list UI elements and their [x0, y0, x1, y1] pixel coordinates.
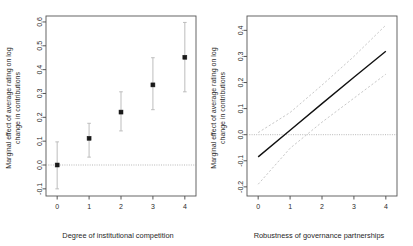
- right-y-tick-labels: -0.2-0.10.00.10.20.30.4: [237, 25, 244, 193]
- right-plot-frame: [247, 16, 397, 196]
- data-point: [151, 83, 155, 87]
- r-y-tick-label: 0.0: [237, 130, 244, 140]
- panel-left-svg: Marginal effect of average rating on log…: [0, 0, 206, 246]
- l-y-tick-label: 0.4: [36, 65, 43, 75]
- left-x-axis-label: Degree of institutional competition: [62, 231, 173, 240]
- l-x-tick-label: 4: [183, 203, 187, 210]
- r-x-tick-label: 4: [384, 203, 388, 210]
- l-x-tick-label: 3: [151, 203, 155, 210]
- left-x-ticks: [57, 196, 185, 200]
- left-y-axis-label-line2: change in contributions: [14, 72, 22, 144]
- l-y-tick-label: 0.0: [36, 160, 43, 170]
- right-confidence-bands: [258, 25, 386, 184]
- r-x-tick-label: 0: [256, 203, 260, 210]
- right-marginal-effect-line: [258, 51, 386, 157]
- l-y-tick-label: 0.5: [36, 41, 43, 51]
- l-x-tick-label: 2: [119, 203, 123, 210]
- l-y-tick-label: 0.1: [36, 136, 43, 146]
- series-upper-95-ci: [258, 25, 386, 132]
- l-y-tick-label: 0.2: [36, 112, 43, 122]
- l-y-tick-label: 0.6: [36, 17, 43, 27]
- l-x-tick-label: 0: [55, 203, 59, 210]
- l-y-tick-label: 0.3: [36, 89, 43, 99]
- panel-right-governance-partnerships: Marginal effect of average rating on log…: [207, 0, 413, 246]
- figure-root: Marginal effect of average rating on log…: [0, 0, 413, 246]
- data-point: [55, 163, 59, 167]
- panel-right-svg: Marginal effect of average rating on log…: [207, 0, 413, 246]
- right-x-tick-labels: 01234: [256, 203, 388, 210]
- r-y-tick-label: 0.3: [237, 51, 244, 61]
- right-x-axis-label: Robustness of governance partnerships: [254, 231, 385, 240]
- left-y-axis-label-line1: Marginal effect of average rating on log: [5, 47, 13, 168]
- left-y-tick-labels: -0.10.00.10.20.30.40.50.6: [36, 17, 43, 195]
- right-y-ticks: [244, 30, 248, 187]
- right-y-axis-label: Marginal effect of average rating on log…: [210, 47, 227, 168]
- data-point: [119, 110, 123, 114]
- left-y-axis-label: Marginal effect of average rating on log…: [5, 47, 22, 168]
- panel-left-institutional-competition: Marginal effect of average rating on log…: [0, 0, 206, 246]
- series-lower-95-ci: [258, 74, 386, 184]
- r-x-tick-label: 1: [288, 203, 292, 210]
- r-y-tick-label: 0.1: [237, 104, 244, 114]
- series-marginal-effect: [258, 51, 386, 157]
- r-y-tick-label: -0.2: [237, 181, 244, 193]
- left-y-ticks: [43, 22, 47, 189]
- left-data-points: [55, 55, 187, 167]
- data-point: [183, 55, 187, 59]
- r-y-tick-label: 0.4: [237, 25, 244, 35]
- r-y-tick-label: 0.2: [237, 78, 244, 88]
- data-point: [87, 136, 91, 140]
- right-x-ticks: [258, 196, 386, 200]
- left-error-bars: [55, 22, 186, 188]
- l-y-tick-label: -0.1: [36, 183, 43, 195]
- r-x-tick-label: 3: [352, 203, 356, 210]
- right-y-axis-label-line2: change in contributions: [219, 72, 227, 144]
- r-x-tick-label: 2: [320, 203, 324, 210]
- left-x-tick-labels: 01234: [55, 203, 187, 210]
- right-y-axis-label-line1: Marginal effect of average rating on log: [210, 47, 218, 168]
- r-y-tick-label: -0.1: [237, 155, 244, 167]
- l-x-tick-label: 1: [87, 203, 91, 210]
